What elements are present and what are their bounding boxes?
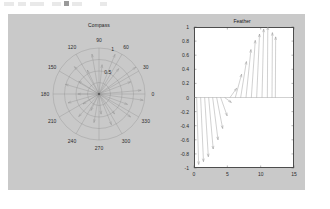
compass-angle-label-30: 30 (143, 64, 149, 70)
compass-angle-label-300: 300 (122, 138, 130, 144)
feather-y-tick--0.4: -0.4 (180, 123, 189, 129)
feather-y-tick-0: 0 (186, 95, 189, 101)
compass-angle-label-60: 60 (123, 44, 129, 50)
compass-angle-label-270: 270 (95, 145, 103, 151)
compass-angle-label-180: 180 (41, 91, 49, 97)
feather-x-tick-0: 0 (193, 171, 196, 177)
compass-angle-label-330: 330 (142, 118, 150, 124)
compass-title: Compass (28, 22, 170, 28)
compass-radial-label-1: 1 (111, 46, 114, 52)
feather-x-axis-labels: 051015 (194, 171, 294, 181)
compass-angle-label-150: 150 (48, 64, 56, 70)
feather-x-tick-10: 10 (258, 171, 264, 177)
feather-svg (194, 27, 294, 168)
feather-y-tick-1: 1 (186, 24, 189, 30)
feather-plot: Feather 10.80.60.40.20-0.2-0.4-0.6-0.8-1… (170, 18, 302, 186)
compass-angle-label-210: 210 (48, 118, 56, 124)
feather-y-axis-labels: 10.80.60.40.20-0.2-0.4-0.6-0.8-1 (170, 27, 191, 168)
feather-y-tick-0.6: 0.6 (182, 52, 189, 58)
screenshot-root: Compass 0306090120150180210240270300330 … (0, 0, 330, 209)
feather-y-tick-0.8: 0.8 (182, 38, 189, 44)
compass-disc: 0306090120150180210240270300330 0.51 (49, 44, 149, 144)
compass-plot: Compass 0306090120150180210240270300330 … (28, 22, 170, 182)
feather-y-tick--0.8: -0.8 (180, 151, 189, 157)
feather-x-tick-5: 5 (226, 171, 229, 177)
compass-svg (49, 44, 149, 144)
application-toolbar-ghost (0, 0, 330, 9)
compass-radial-label-0.5: 0.5 (104, 69, 111, 75)
compass-angle-label-90: 90 (96, 37, 102, 43)
feather-y-tick--0.2: -0.2 (180, 109, 189, 115)
feather-y-tick-0.4: 0.4 (182, 66, 189, 72)
feather-title: Feather (182, 18, 302, 24)
feather-y-tick-0.2: 0.2 (182, 80, 189, 86)
feather-y-tick--0.6: -0.6 (180, 137, 189, 143)
feather-x-tick-15: 15 (291, 171, 297, 177)
feather-y-tick--1: -1 (185, 165, 189, 171)
compass-angle-label-240: 240 (68, 138, 76, 144)
compass-angle-label-120: 120 (68, 44, 76, 50)
matlab-figure-panel: Compass 0306090120150180210240270300330 … (8, 14, 305, 190)
compass-angle-label-0: 0 (152, 91, 155, 97)
compass-origin-marker (98, 93, 100, 95)
